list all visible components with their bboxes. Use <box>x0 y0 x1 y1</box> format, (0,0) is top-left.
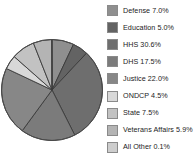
chart-legend: Defense 7.0%Education 5.0%HHS 30.6%DHS 1… <box>107 2 196 159</box>
legend-item-label: State 7.5% <box>123 109 159 117</box>
pie-chart-figure: Defense 7.0%Education 5.0%HHS 30.6%DHS 1… <box>0 0 196 159</box>
legend-item-label: ONDCP 4.5% <box>123 92 168 100</box>
legend-item[interactable]: HHS 30.6% <box>107 36 196 53</box>
legend-item[interactable]: Defense 7.0% <box>107 2 196 19</box>
legend-item[interactable]: ONDCP 4.5% <box>107 87 196 104</box>
legend-item-label: All Other 0.1% <box>123 143 170 151</box>
pie-chart-svg <box>0 26 104 154</box>
legend-item-label: HHS 30.6% <box>123 41 161 49</box>
legend-swatch <box>107 22 118 33</box>
legend-item-label: Justice 22.0% <box>123 75 168 83</box>
legend-item-label: DHS 17.5% <box>123 58 161 66</box>
legend-item[interactable]: Veterans Affairs 5.9% <box>107 122 196 139</box>
legend-item[interactable]: DHS 17.5% <box>107 53 196 70</box>
pie-slices-group <box>1 39 102 140</box>
legend-item[interactable]: State 7.5% <box>107 105 196 122</box>
legend-swatch <box>107 5 118 16</box>
legend-swatch <box>107 108 118 119</box>
legend-item-label: Defense 7.0% <box>123 7 169 15</box>
legend-swatch <box>107 56 118 67</box>
legend-item-label: Veterans Affairs 5.9% <box>123 126 193 134</box>
legend-item[interactable]: Justice 22.0% <box>107 70 196 87</box>
pie-chart-plot-area <box>0 26 104 154</box>
legend-swatch <box>107 125 118 136</box>
legend-item[interactable]: Education 5.0% <box>107 19 196 36</box>
legend-swatch <box>107 142 118 153</box>
legend-swatch <box>107 39 118 50</box>
legend-swatch <box>107 91 118 102</box>
legend-item[interactable]: All Other 0.1% <box>107 139 196 156</box>
legend-item-label: Education 5.0% <box>123 24 174 32</box>
legend-swatch <box>107 73 118 84</box>
